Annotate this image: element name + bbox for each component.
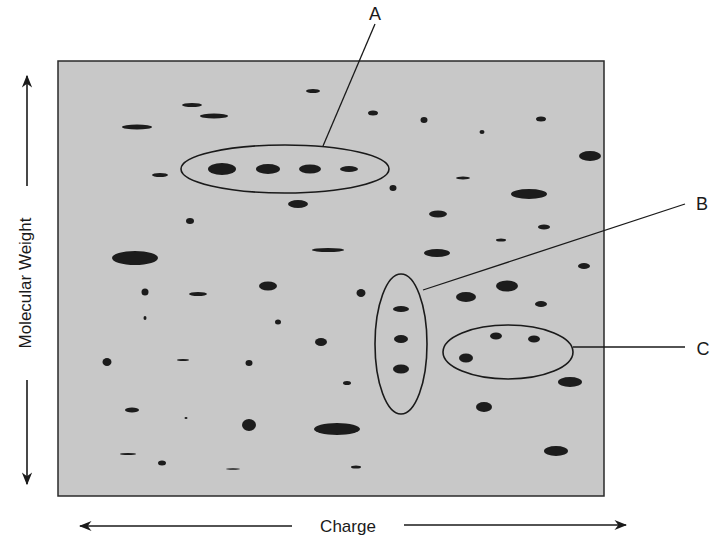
protein-spot [393,306,409,312]
y-axis-label: Molecular Weight [16,217,35,348]
protein-spot [351,466,361,469]
x-axis: Charge [80,517,626,536]
protein-spot [112,251,158,265]
protein-spot [142,289,149,296]
protein-spot [536,117,546,122]
protein-spot [306,89,320,93]
protein-spot [511,189,547,199]
protein-spot [299,165,321,174]
protein-spot [368,111,378,116]
protein-spot [103,358,112,366]
gel-diagram: ABC Molecular Weight Charge [0,0,726,549]
protein-spot [544,446,568,456]
protein-spot [125,408,139,413]
protein-spot [120,453,136,455]
protein-spot [357,289,366,297]
protein-spot [189,292,207,296]
protein-spot [578,263,590,269]
protein-spot [200,114,228,119]
protein-spot [476,402,492,412]
protein-spot [390,185,397,191]
protein-spot [535,301,547,307]
protein-spot [242,419,256,431]
protein-spot [528,336,540,343]
protein-spot [538,225,550,230]
protein-spot [456,292,476,302]
callout-label-a: A [369,4,381,24]
protein-spot [394,335,408,343]
protein-spot [421,117,428,123]
protein-spot [393,365,409,374]
protein-spot [256,164,280,174]
protein-spot [246,360,253,366]
protein-spot [480,130,485,134]
protein-spot [558,377,582,387]
protein-spot [312,248,344,252]
protein-spot [208,163,236,175]
protein-spot [424,249,450,257]
protein-spot [496,281,518,292]
protein-spot [226,468,240,470]
callout-label-b: B [696,194,708,214]
x-axis-label: Charge [320,517,376,536]
protein-spot [315,338,327,346]
protein-spot [152,173,168,177]
protein-spot [275,320,281,325]
protein-spot [456,177,470,180]
protein-spot [490,333,502,340]
protein-spot [579,151,601,161]
protein-spot [459,354,473,363]
protein-spot [288,200,308,208]
protein-spot [259,282,277,291]
y-axis: Molecular Weight [16,76,35,484]
protein-spot [144,316,147,320]
protein-spot [496,239,506,242]
protein-spot [429,211,447,218]
protein-spot [314,423,360,435]
protein-spot [158,461,166,466]
callout-label-c: C [697,339,710,359]
protein-spot [340,166,358,172]
protein-spot [185,417,188,419]
protein-spot [122,125,152,130]
protein-spot [177,359,189,361]
protein-spot [186,218,194,224]
protein-spot [343,381,351,385]
protein-spot [182,103,202,107]
